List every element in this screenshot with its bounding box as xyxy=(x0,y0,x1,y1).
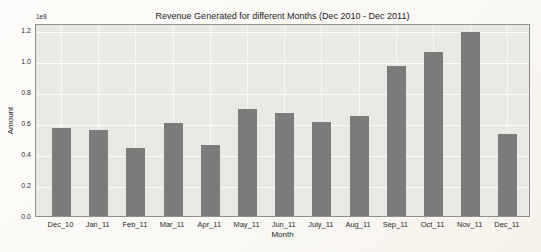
bar-Dec_11 xyxy=(498,134,517,216)
bar-July_11 xyxy=(312,122,331,216)
gridline-horizontal xyxy=(36,94,529,95)
bar-Oct_11 xyxy=(424,52,443,216)
gridline-horizontal xyxy=(36,63,529,64)
chart-title: Revenue Generated for different Months (… xyxy=(35,11,530,21)
plot-area xyxy=(35,24,530,217)
gridline-horizontal xyxy=(36,32,529,33)
x-axis-label: Month xyxy=(35,230,530,239)
x-tick-label: Dec_11 xyxy=(485,220,529,229)
y-tick-label: 1.0 xyxy=(0,58,31,65)
y-tick-label: 1.2 xyxy=(0,27,31,34)
bar-Dec_10 xyxy=(52,128,71,216)
y-tick-label: 0.4 xyxy=(0,151,31,158)
bar-Apr_11 xyxy=(201,145,220,216)
bar-Jun_11 xyxy=(275,113,294,216)
y-tick-label: 0.8 xyxy=(0,89,31,96)
y-tick-label: 0.0 xyxy=(0,213,31,220)
y-tick-label: 0.6 xyxy=(0,120,31,127)
bar-chart-figure: Revenue Generated for different Months (… xyxy=(0,0,541,252)
bar-May_11 xyxy=(238,109,257,216)
bar-Aug_11 xyxy=(350,116,369,216)
bar-Mar_11 xyxy=(164,123,183,216)
bar-Jan_11 xyxy=(89,130,108,216)
bar-Nov_11 xyxy=(461,32,480,216)
bar-Feb_11 xyxy=(126,148,145,216)
y-axis-offset-label: 1e8 xyxy=(36,13,47,20)
y-tick-label: 0.2 xyxy=(0,182,31,189)
bar-Sep_11 xyxy=(387,66,406,216)
